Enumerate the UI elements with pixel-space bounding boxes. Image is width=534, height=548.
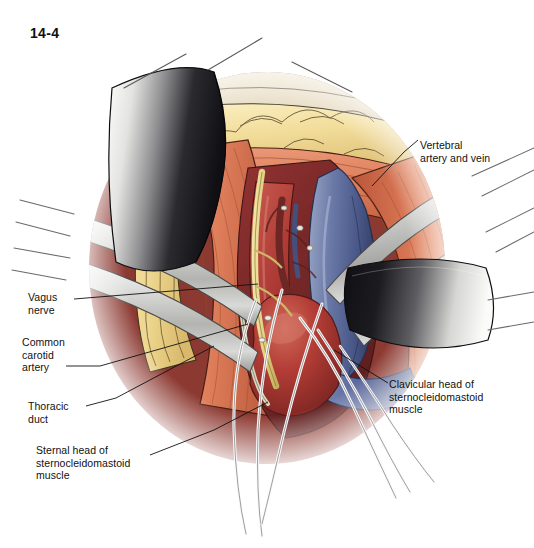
callout-thoracic-duct: Thoracic duct <box>28 400 69 425</box>
callout-sternal-head-sternocleidomastoid: Sternal head of sternocleidomastoid musc… <box>36 444 130 482</box>
callout-vagus-nerve: Vagus nerve <box>28 291 57 316</box>
callout-common-carotid-artery: Common carotid artery <box>22 336 65 374</box>
figure-container: 14-4 <box>0 0 534 548</box>
callout-vertebral-artery-and-vein: Vertebral artery and vein <box>420 139 490 164</box>
callout-clavicular-head-sternocleidomastoid: Clavicular head of sternocleidomastoid m… <box>389 378 483 416</box>
